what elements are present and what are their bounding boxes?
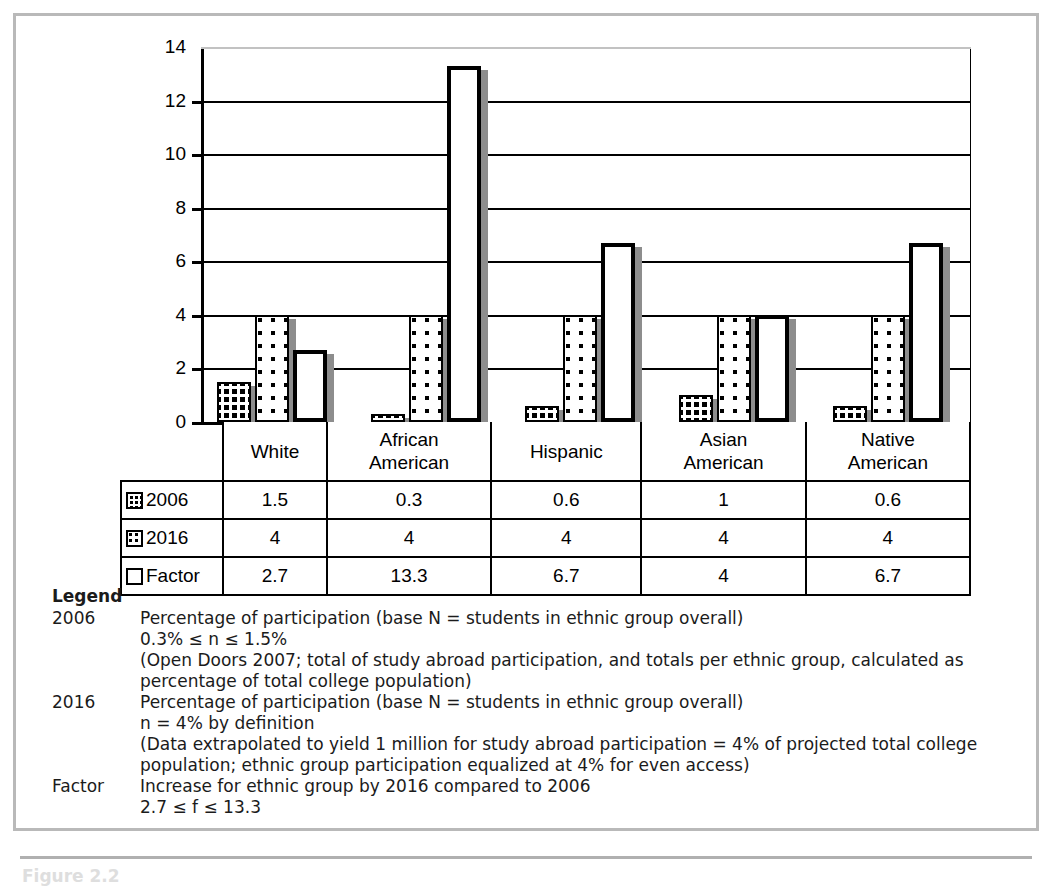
table-cell: 4 — [806, 519, 970, 557]
bar-fill — [371, 414, 405, 422]
y-axis-label-8: 8 — [142, 198, 186, 217]
legend-entry-description: Percentage of participation (base N = st… — [140, 692, 1032, 776]
bar-2016-native-american — [871, 315, 905, 422]
legend-entries: 2006Percentage of participation (base N … — [52, 608, 1032, 818]
y-tick-mark-2 — [192, 368, 201, 371]
series-key-label: 2016 — [146, 527, 188, 548]
bar-fill — [909, 243, 943, 422]
y-tick-mark-12 — [192, 101, 201, 104]
category-header-line: White — [226, 440, 324, 463]
y-tick-mark-6 — [192, 261, 201, 264]
bar-2016-hispanic — [563, 315, 597, 422]
legend-line: (Data extrapolated to yield 1 million fo… — [140, 734, 1032, 776]
legend-title: Legend — [52, 586, 1032, 607]
bar-factor-native-american — [909, 243, 943, 422]
bar-2016-asian-american — [717, 315, 751, 422]
bar-2006-african-american — [371, 414, 405, 422]
bar-fill — [871, 315, 905, 422]
table-row-categories: WhiteAfricanAmericanHispanicAsianAmerica… — [121, 422, 970, 481]
legend-line: Increase for ethnic group by 2016 compar… — [140, 776, 1032, 797]
category-header-line: Hispanic — [494, 440, 638, 463]
bar-fill — [409, 315, 443, 422]
y-tick-mark-4 — [192, 315, 201, 318]
y-axis-label-4: 4 — [142, 305, 186, 324]
table-cell: 0.6 — [491, 481, 641, 519]
bar-group-hispanic — [509, 47, 663, 422]
category-header-4: NativeAmerican — [806, 422, 970, 481]
light-dotted-swatch-icon — [126, 530, 143, 547]
bar-fill — [679, 395, 713, 422]
bar-fill — [293, 350, 327, 422]
bar-2006-asian-american — [679, 395, 713, 422]
legend-entry-key: 2016 — [52, 692, 140, 713]
legend-line: 2.7 ≤ f ≤ 13.3 — [140, 797, 1032, 818]
y-axis-label-12: 12 — [142, 91, 186, 110]
table-cell: 0.6 — [806, 481, 970, 519]
figure-caption: Figure 2.2 — [22, 866, 120, 886]
bar-shadow — [327, 354, 334, 426]
series-key-label: 2006 — [146, 489, 188, 510]
y-axis-label-10: 10 — [142, 144, 186, 163]
bar-2006-hispanic — [525, 406, 559, 422]
table-cell: 4 — [223, 519, 327, 557]
bar-shadow — [943, 247, 950, 426]
bar-fill — [833, 406, 867, 422]
table-row: 201644444 — [121, 519, 970, 557]
table-cell: 4 — [327, 519, 491, 557]
legend-entry-2016: 2016Percentage of participation (base N … — [52, 692, 1032, 776]
data-table: WhiteAfricanAmericanHispanicAsianAmerica… — [120, 422, 971, 596]
series-key-label: Factor — [146, 565, 200, 586]
bar-fill — [255, 315, 289, 422]
legend-entry-key: Factor — [52, 776, 140, 797]
table-cell: 4 — [491, 519, 641, 557]
bar-group-native-american — [817, 47, 971, 422]
bar-fill — [601, 243, 635, 422]
bar-group-white — [201, 47, 355, 422]
y-tick-mark-10 — [192, 154, 201, 157]
bar-2016-white — [255, 315, 289, 422]
legend-entry-description: Percentage of participation (base N = st… — [140, 608, 1032, 692]
category-header-line: Asian — [644, 428, 802, 451]
category-header-line: African — [330, 428, 488, 451]
bar-fill — [755, 315, 789, 422]
legend-line: 0.3% ≤ n ≤ 1.5% — [140, 629, 1032, 650]
category-header-line: American — [330, 451, 488, 474]
legend-entry-description: Increase for ethnic group by 2016 compar… — [140, 776, 1032, 818]
table-cell: 1.5 — [223, 481, 327, 519]
bar-group-asian-american — [663, 47, 817, 422]
figure-frame: 02468101214 WhiteAfricanAmericanHispanic… — [13, 13, 1039, 831]
legend-line: n = 4% by definition — [140, 713, 1032, 734]
bar-shadow — [635, 247, 642, 426]
table-cell: 4 — [641, 519, 805, 557]
bar-shadow — [789, 319, 796, 426]
bar-chart — [201, 47, 971, 422]
legend-line: (Open Doors 2007; total of study abroad … — [140, 650, 1032, 692]
table-corner-cell — [121, 422, 223, 481]
category-header-3: AsianAmerican — [641, 422, 805, 481]
legend-entry-2006: 2006Percentage of participation (base N … — [52, 608, 1032, 692]
legend-line: Percentage of participation (base N = st… — [140, 692, 1032, 713]
category-header-line: Native — [809, 428, 967, 451]
series-key-cell-2016: 2016 — [121, 519, 223, 557]
y-tick-mark-8 — [192, 208, 201, 211]
bottom-divider — [20, 856, 1032, 859]
bar-factor-african-american — [447, 66, 481, 422]
bar-group-african-american — [355, 47, 509, 422]
category-header-1: AfricanAmerican — [327, 422, 491, 481]
category-header-line: American — [809, 451, 967, 474]
y-axis-label-2: 2 — [142, 358, 186, 377]
category-header-0: White — [223, 422, 327, 481]
dark-dotted-swatch-icon — [126, 492, 143, 509]
table-row: 20061.50.30.610.6 — [121, 481, 970, 519]
table-cell: 1 — [641, 481, 805, 519]
category-header-2: Hispanic — [491, 422, 641, 481]
outline-swatch-icon — [126, 568, 143, 585]
bar-2006-white — [217, 382, 251, 422]
bar-fill — [563, 315, 597, 422]
bar-factor-hispanic — [601, 243, 635, 422]
legend-line: Percentage of participation (base N = st… — [140, 608, 1032, 629]
bar-shadow — [481, 70, 488, 426]
bar-fill — [217, 382, 251, 422]
bar-fill — [525, 406, 559, 422]
bar-2006-native-american — [833, 406, 867, 422]
